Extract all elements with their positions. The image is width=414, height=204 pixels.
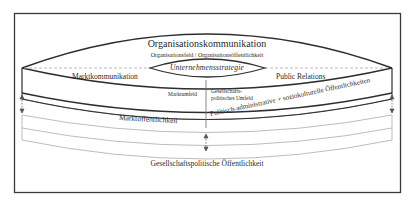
right-double-arrow-icon	[390, 95, 394, 113]
left-double-arrow-icon	[20, 95, 24, 113]
diagram-shapes	[0, 0, 414, 204]
diagram-subtitle: Organisationsfeld / Organisationsöffentl…	[0, 52, 414, 58]
diagram-title: Organisationskommunikation	[0, 39, 414, 49]
center-double-arrow-icon	[204, 134, 208, 151]
diagram-canvas: Organisationskommunikation Organisations…	[0, 0, 414, 204]
right-upper-label: Public Relations	[276, 73, 325, 81]
center-strategy-label: Unternehmensstrategie	[0, 64, 414, 72]
bottom-public-label: Gesellschaftspolitische Öffentlichkeit	[0, 160, 414, 168]
left-field-label: Marktumfeld	[168, 92, 197, 98]
left-upper-label: Marktkommunikation	[72, 73, 138, 81]
lower-lens-top	[22, 115, 392, 133]
